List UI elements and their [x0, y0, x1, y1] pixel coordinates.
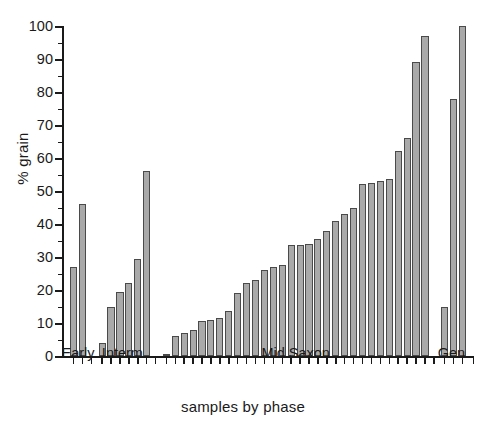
x-tick — [237, 357, 239, 364]
bar — [341, 214, 348, 356]
y-tick-minor — [58, 142, 62, 144]
y-axis-title: % grain — [14, 99, 31, 219]
y-tick-major — [55, 257, 62, 259]
x-tick — [389, 357, 391, 364]
bar — [297, 245, 304, 356]
y-tick-label: 40 — [37, 217, 53, 232]
y-tick-minor — [58, 43, 62, 45]
x-tick — [192, 357, 194, 364]
x-group-label: Early — [62, 345, 95, 361]
y-tick-label: 50 — [37, 184, 53, 199]
x-axis-title: samples by phase — [0, 398, 486, 415]
y-tick-major — [55, 59, 62, 61]
y-tick-major — [55, 92, 62, 94]
bar — [270, 267, 277, 356]
x-tick — [335, 357, 337, 364]
bar — [305, 244, 312, 356]
bar — [359, 184, 366, 356]
y-tick-label: 0 — [45, 349, 53, 364]
bar — [332, 221, 339, 356]
x-tick — [246, 357, 248, 364]
y-tick-major — [55, 125, 62, 127]
x-tick — [155, 357, 157, 364]
y-tick-label: 70 — [37, 118, 53, 133]
x-tick — [397, 357, 399, 364]
x-tick — [415, 357, 417, 364]
y-tick-major — [55, 26, 62, 28]
bar — [350, 208, 357, 357]
x-tick — [201, 357, 203, 364]
y-tick-major — [55, 323, 62, 325]
y-tick-minor — [58, 175, 62, 177]
bar — [395, 151, 402, 356]
bar — [70, 267, 77, 356]
bar — [79, 204, 86, 356]
bar — [314, 239, 321, 356]
y-tick-minor — [58, 208, 62, 210]
x-tick — [183, 357, 185, 364]
bar — [404, 138, 411, 356]
x-tick — [424, 357, 426, 364]
x-tick — [255, 357, 257, 364]
bar — [412, 62, 419, 356]
bar — [377, 181, 384, 356]
bar — [261, 270, 268, 356]
bar — [288, 245, 295, 356]
x-tick — [473, 357, 475, 364]
bar — [198, 321, 205, 356]
bar — [459, 26, 466, 356]
y-tick-major — [55, 224, 62, 226]
bar — [216, 318, 223, 356]
bar — [207, 320, 214, 356]
bar — [323, 231, 330, 356]
bar — [386, 179, 393, 356]
x-tick — [362, 357, 364, 364]
y-axis-line — [62, 26, 64, 356]
x-group-label: Mid Saxon — [261, 345, 330, 361]
x-group-label: Gen. — [438, 345, 469, 361]
x-tick — [433, 357, 435, 364]
y-tick-minor — [58, 76, 62, 78]
bar-chart: % grain 0102030405060708090100 EarlyInte… — [0, 0, 486, 434]
y-tick-label: 80 — [37, 85, 53, 100]
y-tick-major — [55, 158, 62, 160]
x-tick — [371, 357, 373, 364]
bar — [279, 265, 286, 356]
bar — [234, 293, 241, 356]
y-tick-minor — [58, 109, 62, 111]
y-tick-label: 90 — [37, 52, 53, 67]
bar — [190, 330, 197, 356]
bar — [421, 36, 428, 356]
y-tick-label: 60 — [37, 151, 53, 166]
bar — [172, 336, 179, 356]
bar — [243, 283, 250, 356]
bar — [181, 333, 188, 356]
bar — [225, 311, 232, 356]
x-tick — [175, 357, 177, 364]
x-tick — [228, 357, 230, 364]
y-tick-major — [55, 290, 62, 292]
y-tick-minor — [58, 274, 62, 276]
x-group-label: Interm. — [102, 345, 147, 361]
y-tick-minor — [58, 241, 62, 243]
plot-area: 0102030405060708090100 — [62, 26, 474, 356]
x-tick — [353, 357, 355, 364]
y-tick-major — [55, 191, 62, 193]
x-tick — [210, 357, 212, 364]
x-tick — [344, 357, 346, 364]
bar — [450, 99, 457, 356]
y-tick-label: 20 — [37, 283, 53, 298]
y-tick-minor — [58, 307, 62, 309]
x-tick — [380, 357, 382, 364]
x-tick — [166, 357, 168, 364]
bar — [134, 259, 141, 356]
bar — [163, 354, 170, 356]
y-tick-label: 100 — [29, 19, 53, 34]
bar — [368, 183, 375, 356]
bar — [252, 280, 259, 356]
x-tick — [219, 357, 221, 364]
bar — [143, 171, 150, 356]
y-tick-label: 10 — [37, 316, 53, 331]
y-tick-label: 30 — [37, 250, 53, 265]
y-tick-minor — [58, 340, 62, 342]
